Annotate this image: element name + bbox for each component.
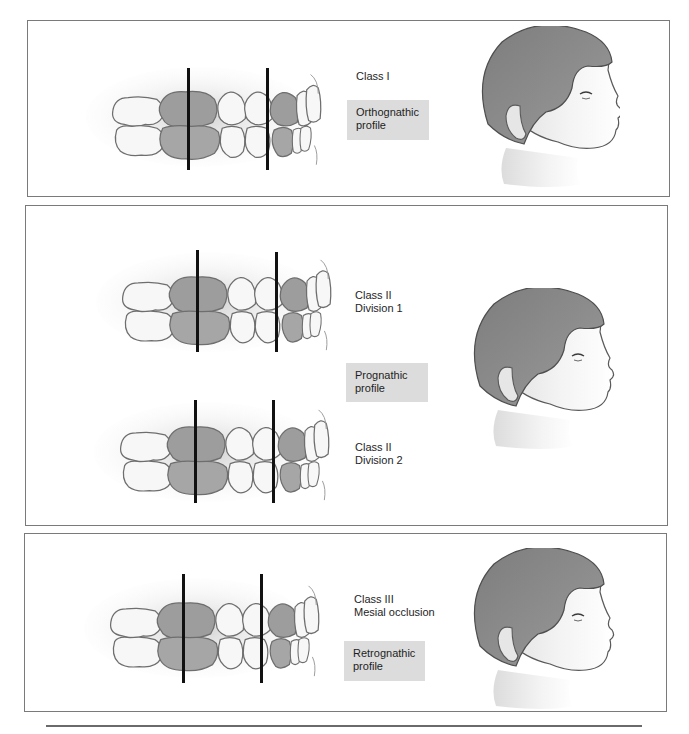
bottom-rule-divider — [46, 725, 642, 727]
teeth-class-2-division-2-illustration — [92, 390, 332, 520]
class-3-label: Class III Mesial occlusion — [354, 593, 435, 619]
reference-line-molar — [187, 68, 190, 170]
class-2-division-2-label: Class II Division 2 — [355, 441, 403, 467]
prognathic-profile-label: Prognathic profile — [346, 363, 428, 402]
reference-line-canine-div2 — [272, 400, 275, 503]
head-retrognathic-profile — [462, 548, 622, 713]
class-2-division-1-label: Class II Division 1 — [355, 289, 403, 315]
reference-line-molar-div2 — [194, 400, 197, 503]
reference-line-canine-div1 — [275, 252, 278, 352]
head-orthognathic-profile — [470, 26, 620, 191]
class-1-label: Class I — [356, 70, 390, 83]
teeth-class-3-illustration — [82, 566, 322, 696]
orthognathic-profile-label: Orthognathic profile — [347, 100, 429, 140]
teeth-class-2-division-1-illustration — [94, 240, 334, 370]
teeth-class-1-illustration — [84, 40, 324, 180]
reference-line-canine — [266, 68, 269, 170]
reference-line-canine-class3 — [260, 574, 263, 683]
reference-line-molar-class3 — [182, 574, 185, 683]
head-prognathic-profile — [462, 288, 622, 453]
retrognathic-profile-label: Retrognathic profile — [344, 641, 425, 681]
reference-line-molar-div1 — [196, 250, 199, 352]
